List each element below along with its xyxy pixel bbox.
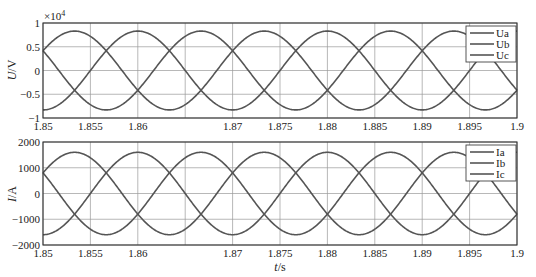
x-tick-label: 1.88 — [318, 120, 338, 132]
top-y-axis-label: U/V — [5, 59, 19, 80]
x-tick-label: 1.885 — [362, 247, 387, 259]
y-multiplier-label: ×104 — [44, 9, 65, 22]
y-tick-label: −1 — [28, 112, 40, 124]
x-tick-label: 1.885 — [362, 120, 387, 132]
legend: UaUbUc — [466, 26, 516, 62]
x-tick-label: 1.9 — [510, 247, 524, 259]
x-tick-label: 1.86 — [128, 120, 148, 132]
x-tick-label: 1.89 — [413, 120, 433, 132]
y-tick-label: −1000 — [12, 213, 41, 225]
x-tick-label: 1.895 — [457, 247, 482, 259]
y-tick-label: 1 — [35, 17, 41, 29]
voltage-panel: 1.851.8551.861.871.8751.881.8851.891.895… — [20, 17, 524, 132]
x-tick-label: 1.88 — [318, 247, 338, 259]
y-tick-label: 0 — [35, 188, 41, 200]
voltage-current-chart: 1.851.8551.861.871.8751.881.8851.891.895… — [0, 0, 536, 277]
legend-label-ic: Ic — [496, 168, 505, 180]
y-tick-label: 1000 — [18, 162, 41, 174]
x-tick-label: 1.875 — [268, 120, 293, 132]
y-tick-label: 0 — [35, 65, 41, 77]
x-tick-label: 1.875 — [268, 247, 293, 259]
bottom-y-axis-label: I/A — [5, 186, 19, 203]
x-tick-label: 1.86 — [128, 247, 148, 259]
legend-label-uc: Uc — [496, 49, 509, 61]
y-tick-label: 2000 — [18, 136, 41, 148]
x-tick-label: 1.87 — [223, 120, 243, 132]
legend: IaIbIc — [466, 145, 516, 181]
y-tick-label: −0.5 — [20, 88, 40, 100]
y-tick-label: 0.5 — [26, 41, 40, 53]
x-tick-label: 1.855 — [78, 247, 103, 259]
y-tick-label: −2000 — [12, 239, 41, 251]
x-tick-label: 1.87 — [223, 247, 243, 259]
x-tick-label: 1.9 — [510, 120, 524, 132]
x-tick-label: 1.855 — [78, 120, 103, 132]
x-tick-label: 1.89 — [413, 247, 433, 259]
current-panel: 1.851.8551.861.871.8751.881.8851.891.895… — [12, 136, 525, 259]
x-tick-label: 1.895 — [457, 120, 482, 132]
x-axis-label: t/s — [274, 260, 286, 274]
